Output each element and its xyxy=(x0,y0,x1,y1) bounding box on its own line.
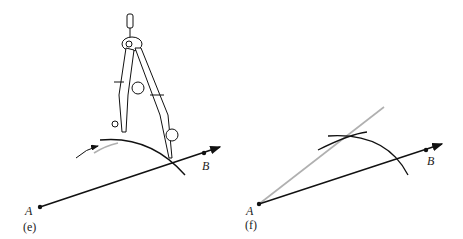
label-a: A xyxy=(24,204,33,218)
point-b xyxy=(202,151,206,155)
panel-e: A B (e) xyxy=(23,14,220,234)
point-b xyxy=(424,148,428,152)
label-b: B xyxy=(427,154,435,168)
arc-short xyxy=(318,132,367,150)
label-a: A xyxy=(245,204,254,218)
point-a xyxy=(257,202,261,206)
label-b: B xyxy=(202,159,210,173)
caption-f: (f) xyxy=(245,218,257,232)
point-a xyxy=(38,205,42,209)
caption-e: (e) xyxy=(23,220,36,234)
segment-ab xyxy=(40,147,220,207)
diagram-canvas: A B (e) A B (f) xyxy=(0,0,463,239)
panel-f: A B (f) xyxy=(245,107,442,232)
construction-line xyxy=(259,107,384,204)
segment-ab xyxy=(259,144,442,204)
compass-icon xyxy=(112,14,178,158)
gray-arc xyxy=(94,143,118,153)
